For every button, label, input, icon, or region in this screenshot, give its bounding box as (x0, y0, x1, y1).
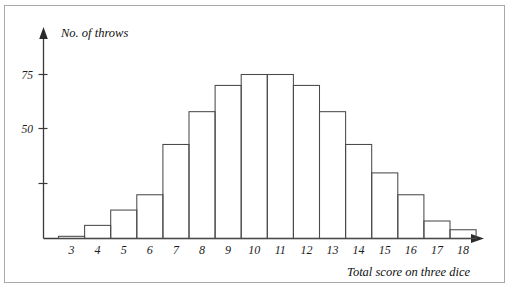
y-axis-arrowhead (39, 27, 48, 39)
bar-17 (424, 221, 450, 238)
x-tick-label-6: 6 (147, 243, 153, 257)
bar-15 (372, 173, 398, 239)
x-tick-label-7: 7 (173, 243, 180, 257)
bar-14 (346, 144, 372, 238)
histogram-plot-area: 75 50 3 4 5 6 7 8 9 10 11 12 13 14 15 16… (0, 0, 511, 290)
x-tick-label-11: 11 (275, 243, 286, 257)
x-tick-label-17: 17 (431, 243, 444, 257)
x-tick-label-9: 9 (225, 243, 231, 257)
bar-8 (189, 112, 215, 239)
x-tick-label-3: 3 (68, 243, 75, 257)
bar-10 (241, 75, 267, 239)
x-tick-label-14: 14 (353, 243, 365, 257)
histogram-bars (59, 75, 477, 239)
y-axis-title: No. of throws (60, 26, 128, 40)
x-tick-label-18: 18 (457, 243, 469, 257)
bar-5 (111, 210, 137, 238)
x-tick-label-4: 4 (95, 243, 101, 257)
x-tick-label-15: 15 (379, 243, 391, 257)
x-tick-label-13: 13 (327, 243, 339, 257)
bar-11 (267, 75, 293, 239)
bar-4 (85, 225, 111, 238)
bar-3 (59, 236, 85, 238)
x-tick-label-5: 5 (121, 243, 127, 257)
x-tick-label-16: 16 (405, 243, 417, 257)
y-axis-group (39, 27, 48, 239)
y-tick-label-75: 75 (22, 69, 34, 81)
bar-7 (163, 144, 189, 238)
x-tick-label-8: 8 (199, 243, 205, 257)
bar-16 (398, 195, 424, 239)
x-tick-label-10: 10 (248, 243, 260, 257)
bar-12 (293, 85, 319, 238)
bar-13 (320, 112, 346, 239)
histogram-svg: 75 50 3 4 5 6 7 8 9 10 11 12 13 14 15 16… (0, 0, 511, 290)
bar-9 (215, 85, 241, 238)
x-tick-label-12: 12 (300, 243, 312, 257)
figure-root: 75 50 3 4 5 6 7 8 9 10 11 12 13 14 15 16… (0, 0, 511, 290)
x-axis-title: Total score on three dice (347, 265, 470, 279)
y-tick-label-50: 50 (22, 123, 34, 135)
bar-6 (137, 195, 163, 239)
